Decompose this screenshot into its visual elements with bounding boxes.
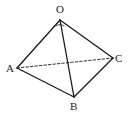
vertex-label-B: B — [70, 100, 77, 112]
vertex-label-A: A — [6, 62, 14, 74]
vertex-label-C: C — [115, 52, 122, 64]
vertex-label-O: O — [56, 3, 64, 15]
edge-AB — [17, 68, 74, 97]
angle-mark-O — [56, 25, 64, 27]
edge-BC — [74, 58, 113, 97]
tetrahedron-diagram: O A B C — [0, 0, 131, 114]
edge-OC — [60, 20, 113, 58]
edge-AC-hidden — [17, 58, 113, 68]
edge-OA — [17, 20, 60, 68]
edge-OB — [60, 20, 74, 97]
